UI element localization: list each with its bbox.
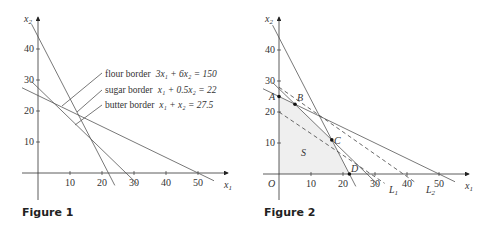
x-tick-labels: 10 20 30 40 50 <box>306 178 444 189</box>
tick-label: 40 <box>265 44 275 55</box>
tick-label: 10 <box>24 136 34 147</box>
label-d: D <box>350 163 359 174</box>
tick-label: 10 <box>265 137 275 148</box>
flour-label: flour border3x₁ + 6x₂ = 150 <box>105 69 217 79</box>
y-axis-label: x2 <box>264 13 273 26</box>
y-axis-label: x2 <box>23 13 32 26</box>
label-c: C <box>334 135 341 146</box>
tick-label: 40 <box>24 43 34 54</box>
border-labels: flour border3x₁ + 6x₂ = 150 sugar border… <box>105 69 217 110</box>
x-axis-label: x1 <box>464 180 473 193</box>
tick-label: 20 <box>97 177 107 188</box>
figure-1: 10 20 30 40 50 10 20 30 40 x1 x2 flour b… <box>22 13 232 200</box>
x-axis-label: x1 <box>223 179 232 192</box>
tick-label: 30 <box>24 74 34 85</box>
origin-label: O <box>268 178 275 189</box>
point-a <box>277 95 281 99</box>
figure-2: 10 20 30 40 50 10 20 30 40 x1 x2 O L1 L2 <box>263 13 473 200</box>
label-b: B <box>297 92 303 103</box>
tick-label: 20 <box>265 106 275 117</box>
sugar-border-line <box>32 24 115 185</box>
tick-label: 20 <box>24 105 34 116</box>
tick-label: 10 <box>306 178 316 189</box>
tick-label: 50 <box>193 177 203 188</box>
figure-2-caption: Figure 2 <box>264 206 315 219</box>
tick-label: 10 <box>65 177 75 188</box>
tick-label: 50 <box>434 178 444 189</box>
figures-canvas: 10 20 30 40 50 10 20 30 40 x1 x2 flour b… <box>0 0 490 228</box>
butter-label: butter borderx₁ + x₂ = 27.5 <box>105 100 214 110</box>
tick-label: 30 <box>129 177 139 188</box>
l1-label: L1 <box>388 184 398 197</box>
tick-label: 40 <box>402 178 412 189</box>
flour-leader <box>62 73 102 106</box>
tick-label: 20 <box>338 178 348 189</box>
y-tick-labels: 10 20 30 40 <box>24 43 34 147</box>
label-a: A <box>268 91 276 102</box>
butter-border-line <box>32 82 138 184</box>
ticks <box>36 49 198 175</box>
region-label: S <box>301 147 306 158</box>
sugar-leader <box>77 90 102 112</box>
tick-label: 30 <box>265 75 275 86</box>
sugar-label: sugar borderx₁ + 0.5x₂ = 22 <box>105 85 217 95</box>
figure-1-caption: Figure 1 <box>22 206 73 219</box>
x-tick-labels: 10 20 30 40 50 <box>65 177 203 188</box>
tick-label: 40 <box>161 177 171 188</box>
